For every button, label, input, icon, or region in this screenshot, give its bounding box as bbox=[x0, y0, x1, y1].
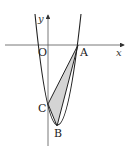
point-c-label: C bbox=[38, 102, 46, 115]
triangle-abc bbox=[48, 45, 78, 126]
x-axis-label: x bbox=[116, 47, 122, 58]
point-b-label: B bbox=[54, 127, 62, 140]
coordinate-diagram: y x O A C B bbox=[0, 0, 130, 153]
y-axis-label: y bbox=[37, 13, 44, 24]
point-a-label: A bbox=[79, 46, 89, 59]
origin-label: O bbox=[38, 46, 47, 59]
